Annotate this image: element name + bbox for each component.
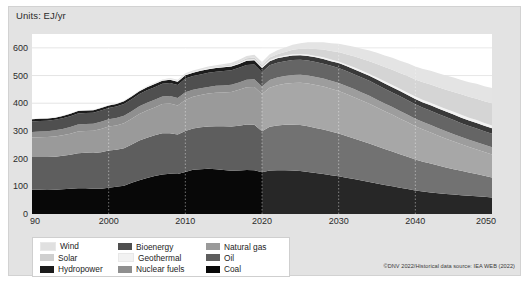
- x-tick-label: 2020: [252, 216, 272, 226]
- legend-swatch-oil-icon: [206, 254, 220, 261]
- y-tick-label: 500: [2, 71, 28, 81]
- x-tick-label: 2040: [405, 216, 425, 226]
- legend-label: Coal: [224, 265, 241, 273]
- legend-item-oil[interactable]: Oil: [206, 254, 290, 262]
- y-tick-label: 600: [2, 43, 28, 53]
- y-tick-label: 400: [2, 98, 28, 108]
- legend-label: Geothermal: [138, 254, 181, 262]
- x-tick-label: 90: [30, 216, 40, 226]
- chart-svg: [32, 34, 492, 214]
- legend-label: Natural gas: [224, 243, 266, 251]
- legend-item-hydropower[interactable]: Hydropower: [40, 265, 118, 273]
- legend-swatch-natural-gas-icon: [206, 243, 220, 250]
- x-tick-label: 2000: [99, 216, 119, 226]
- legend-swatch-solar-icon: [40, 254, 54, 261]
- y-tick-label: 0: [2, 209, 28, 219]
- legend-swatch-nuclear-fuels-icon: [118, 266, 132, 273]
- legend-label: Hydropower: [58, 265, 103, 273]
- x-axis: 90200020102020203020402050: [32, 216, 492, 230]
- legend-item-wind[interactable]: Wind: [40, 242, 118, 251]
- legend-item-bioenergy[interactable]: Bioenergy: [118, 243, 206, 251]
- legend-item-geothermal[interactable]: Geothermal: [118, 253, 206, 262]
- legend-label: Bioenergy: [136, 243, 173, 251]
- legend-swatch-hydropower-icon: [40, 266, 54, 273]
- legend-swatch-wind-icon: [40, 242, 56, 251]
- legend-swatch-bioenergy-icon: [118, 243, 132, 250]
- credit-text: ©DNV 2022/Historical data source: IEA WE…: [383, 263, 515, 269]
- legend-swatch-geothermal-icon: [118, 253, 134, 262]
- y-axis: 0100200300400500600: [0, 34, 28, 214]
- plot-area: [32, 34, 492, 214]
- x-tick-label: 2010: [175, 216, 195, 226]
- x-tick-label: 2050: [476, 216, 496, 226]
- chart-legend: WindBioenergyNatural gasSolarGeothermalO…: [32, 237, 290, 277]
- legend-item-solar[interactable]: Solar: [40, 254, 118, 262]
- legend-swatch-coal-icon: [206, 266, 220, 273]
- legend-item-nuclear-fuels[interactable]: Nuclear fuels: [118, 265, 206, 273]
- stacked-area-plot: [32, 34, 492, 214]
- legend-item-natural-gas[interactable]: Natural gas: [206, 243, 290, 251]
- legend-label: Wind: [60, 242, 79, 250]
- figure-world-primary-energy: Units: EJ/yr 0100200300400500600 9020002…: [0, 0, 529, 300]
- legend-label: Solar: [58, 254, 77, 262]
- legend-label: Oil: [224, 254, 234, 262]
- forecast-overlay: [262, 34, 492, 214]
- units-label: Units: EJ/yr: [16, 10, 66, 21]
- legend-item-coal[interactable]: Coal: [206, 265, 290, 273]
- x-tick-label: 2030: [329, 216, 349, 226]
- y-tick-label: 300: [2, 126, 28, 136]
- y-tick-label: 100: [2, 181, 28, 191]
- legend-label: Nuclear fuels: [136, 265, 184, 273]
- y-tick-label: 200: [2, 154, 28, 164]
